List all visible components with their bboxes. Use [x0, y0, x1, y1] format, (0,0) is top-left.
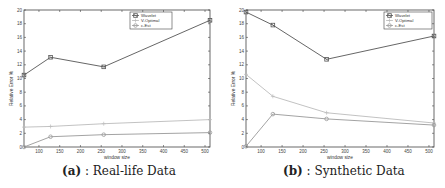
caption-text: : Real-life Data: [85, 164, 176, 178]
y-tick-label: 16: [17, 35, 23, 40]
y-tick-label: 18: [17, 21, 23, 26]
y-tick-label: 4: [19, 117, 22, 122]
data-line: [246, 114, 434, 146]
x-tick-label: 200: [77, 149, 85, 154]
plus-marker-icon: [325, 111, 329, 115]
square-marker-icon: [271, 23, 275, 27]
legend-label: c-Est: [141, 23, 151, 28]
x-tick-label: 250: [320, 149, 328, 154]
x-tick-label: 450: [404, 149, 412, 154]
data-line: [24, 20, 210, 75]
x-tick-label: 250: [97, 149, 105, 154]
axes-frame: [246, 10, 434, 147]
y-axis-label: Relative Error %: [9, 70, 14, 106]
plus-marker-icon: [102, 122, 106, 126]
caption-real-life: (a) : Real-life Data: [62, 164, 176, 178]
x-tick-label: 300: [118, 149, 126, 154]
y-tick-label: 20: [239, 8, 245, 13]
x-tick-label: 300: [341, 149, 349, 154]
data-line: [24, 133, 210, 147]
legend: WaveletV-Optimalc-Est: [384, 12, 432, 29]
x-tick-label: 450: [181, 149, 189, 154]
y-axis-label: Relative Error %: [231, 70, 236, 106]
y-tick-label: 6: [241, 103, 244, 108]
y-tick-label: 14: [239, 49, 245, 54]
y-tick-label: 6: [19, 103, 22, 108]
x-tick-label: 200: [299, 149, 307, 154]
caption-text: : Synthetic Data: [307, 164, 405, 178]
series-v-optimal: [244, 72, 436, 125]
data-line: [24, 120, 210, 128]
x-tick-label: 500: [201, 149, 209, 154]
plus-marker-icon: [49, 124, 53, 128]
x-tick-label: 350: [362, 149, 370, 154]
y-axis: 02468101214161820: [17, 8, 210, 150]
x-tick-label: 400: [160, 149, 168, 154]
series-c-est: [22, 131, 212, 149]
caption-label: (a): [62, 164, 81, 178]
y-tick-label: 4: [241, 117, 244, 122]
plus-marker-icon: [22, 125, 26, 129]
line-chart-real-life: 0246810121416182010015020025030035040045…: [0, 0, 222, 160]
y-tick-label: 12: [239, 62, 245, 67]
x-tick-label: 100: [257, 149, 265, 154]
x-tick-label: 150: [278, 149, 286, 154]
plus-marker-icon: [208, 118, 212, 122]
x-axis-label: window size: [104, 155, 130, 160]
caption-label: (b): [283, 164, 303, 178]
x-axis-label: window size: [327, 155, 353, 160]
x-tick-label: 500: [425, 149, 433, 154]
y-tick-label: 12: [17, 62, 23, 67]
y-tick-label: 10: [239, 76, 245, 81]
series-c-est: [244, 112, 436, 148]
y-tick-label: 2: [19, 131, 22, 136]
x-tick-label: 350: [139, 149, 147, 154]
legend: WaveletV-Optimalc-Est: [130, 12, 172, 29]
y-tick-label: 8: [19, 90, 22, 95]
chart-panel-synthetic: 0246810121416182010015020025030035040045…: [222, 0, 445, 160]
y-tick-label: 10: [17, 76, 23, 81]
y-tick-label: 14: [17, 49, 23, 54]
x-tick-label: 100: [35, 149, 43, 154]
legend-label: c-Est: [395, 23, 405, 28]
y-tick-label: 2: [241, 131, 244, 136]
chart-panel-real-life: 0246810121416182010015020025030035040045…: [0, 0, 222, 160]
series-v-optimal: [22, 118, 212, 130]
line-chart-synthetic: 0246810121416182010015020025030035040045…: [222, 0, 445, 160]
caption-synthetic: (b) : Synthetic Data: [283, 164, 405, 178]
series-wavelet: [22, 18, 212, 76]
y-tick-label: 20: [17, 8, 23, 13]
y-tick-label: 18: [239, 21, 245, 26]
x-tick-label: 400: [383, 149, 391, 154]
y-tick-label: 8: [241, 90, 244, 95]
x-tick-label: 150: [56, 149, 64, 154]
y-tick-label: 16: [239, 35, 245, 40]
